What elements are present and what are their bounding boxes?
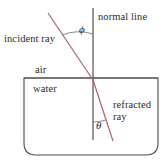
refraction-diagram: normal line incident ray air water refra… xyxy=(0,0,168,166)
label-normal-line: normal line xyxy=(98,11,147,23)
label-air: air xyxy=(35,64,46,76)
label-refracted-ray: refracted ray xyxy=(113,99,161,122)
incident-ray-line xyxy=(48,13,93,80)
angle-phi-symbol: ϕ xyxy=(79,24,85,35)
label-incident-ray: incident ray xyxy=(4,33,55,45)
angle-phi-arc xyxy=(62,32,93,35)
refracted-ray-line xyxy=(93,80,113,141)
label-water: water xyxy=(33,83,57,95)
angle-theta-symbol: θ xyxy=(96,120,101,131)
